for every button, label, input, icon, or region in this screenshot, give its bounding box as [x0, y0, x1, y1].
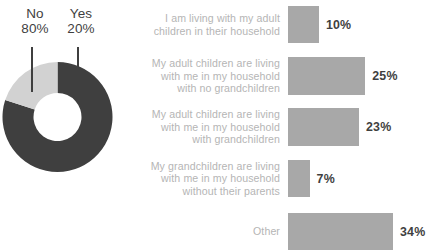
donut-callout-yes: Yes 20% [58, 6, 104, 36]
bar-track: 25% [288, 57, 430, 95]
bar-row: My grandchildren are livingwith me in my… [140, 160, 430, 197]
bar-rect [288, 57, 365, 95]
bar-row-label-line: with me in my household [140, 172, 280, 184]
donut-callout-no-label: No [12, 6, 58, 21]
bar-row-label-line: without their parents [140, 185, 280, 197]
donut-callout-no: No 80% [12, 6, 58, 36]
bar-value-label: 7% [310, 172, 335, 186]
donut-callout-no-value: 80% [12, 21, 58, 36]
donut-chart: No 80% Yes 20% [0, 0, 140, 252]
bar-row-label-line: My adult children are living [140, 57, 280, 69]
bar-value-label: 23% [359, 120, 391, 134]
bar-row-label: Other [140, 225, 288, 237]
bar-row-label-line: with grandchildren [140, 133, 280, 145]
donut-callout-yes-label: Yes [58, 6, 104, 21]
bar-rect [288, 213, 393, 250]
bar-value-label: 25% [365, 69, 397, 83]
bar-row-label-line: children in their household [140, 25, 280, 37]
bar-rect [288, 6, 319, 43]
bar-row-label-line: My grandchildren are living [140, 160, 280, 172]
bar-track: 34% [288, 213, 430, 250]
bar-track: 23% [288, 108, 430, 146]
bar-rect [288, 108, 359, 146]
bar-row: Other34% [140, 213, 430, 250]
bar-row-label-line: Other [140, 225, 280, 237]
bar-value-label: 10% [319, 18, 351, 32]
bar-row: My adult children are livingwith me in m… [140, 108, 430, 146]
bar-value-label: 34% [393, 225, 425, 239]
bar-row-label-line: My adult children are living [140, 108, 280, 120]
bar-row-label-line: with no grandchildren [140, 82, 280, 94]
bar-row-label: I am living with my adultchildren in the… [140, 12, 288, 37]
donut-chart-svg [0, 0, 140, 252]
bar-row-label-line: with me in my household [140, 121, 280, 133]
bar-row-label-line: with me in my household [140, 70, 280, 82]
donut-callout-yes-value: 20% [58, 21, 104, 36]
bar-row-label: My grandchildren are livingwith me in my… [140, 160, 288, 197]
bar-track: 7% [288, 160, 430, 197]
bar-row: My adult children are livingwith me in m… [140, 57, 430, 95]
bar-row-label-line: I am living with my adult [140, 12, 280, 24]
bar-track: 10% [288, 6, 430, 43]
bar-rect [288, 160, 310, 197]
bar-row: I am living with my adultchildren in the… [140, 6, 430, 43]
bar-row-label: My adult children are livingwith me in m… [140, 57, 288, 94]
bar-row-label: My adult children are livingwith me in m… [140, 108, 288, 145]
bar-chart: I am living with my adultchildren in the… [140, 0, 430, 252]
donut-slice-group [2, 62, 112, 172]
